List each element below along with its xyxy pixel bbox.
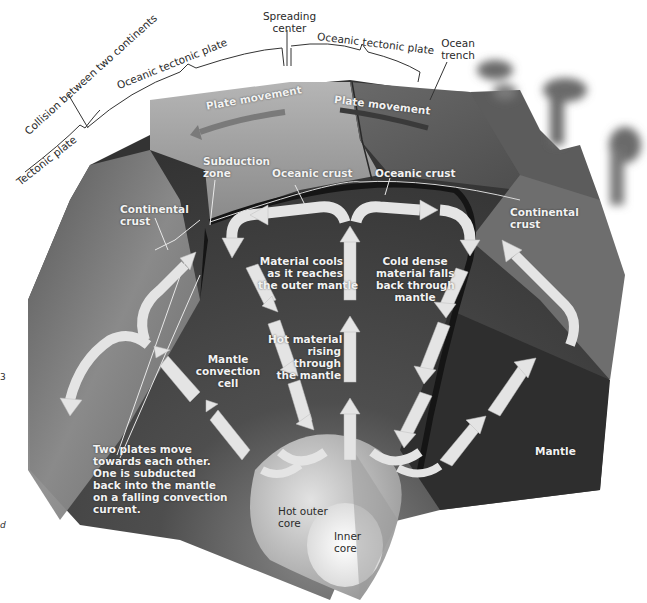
label-material-cools: Material cools as it reaches the outer m…	[258, 255, 343, 291]
margin-fragment-bottom: d	[0, 519, 6, 531]
earth-block	[28, 60, 641, 600]
margin-fragment-top: 3	[0, 371, 6, 383]
label-spreading-center: Spreading center	[262, 10, 317, 34]
label-continental-crust-left: Continental crust	[120, 203, 189, 227]
plate-tectonics-diagram: Tectonic plate Collision between two con…	[0, 0, 647, 603]
label-cold-dense-material: Cold dense material falls back through m…	[376, 255, 454, 303]
label-inner-core: Inner core	[334, 530, 361, 554]
label-continental-crust-right: Continental crust	[510, 206, 579, 230]
label-mantle: Mantle	[535, 445, 576, 457]
label-hot-outer-core: Hot outer core	[278, 505, 328, 529]
label-hot-material-rising: Hot material rising through the mantle	[268, 333, 341, 381]
label-ocean-trench: Ocean trench	[438, 37, 478, 61]
label-subduction-zone: Subduction zone	[203, 155, 270, 179]
label-oceanic-crust-right: Oceanic crust	[375, 167, 455, 179]
label-two-plates-move: Two plates move towards each other. One …	[93, 443, 228, 515]
label-oceanic-crust-left: Oceanic crust	[272, 167, 352, 179]
label-mantle-convection-cell: Mantle convection cell	[193, 353, 263, 389]
